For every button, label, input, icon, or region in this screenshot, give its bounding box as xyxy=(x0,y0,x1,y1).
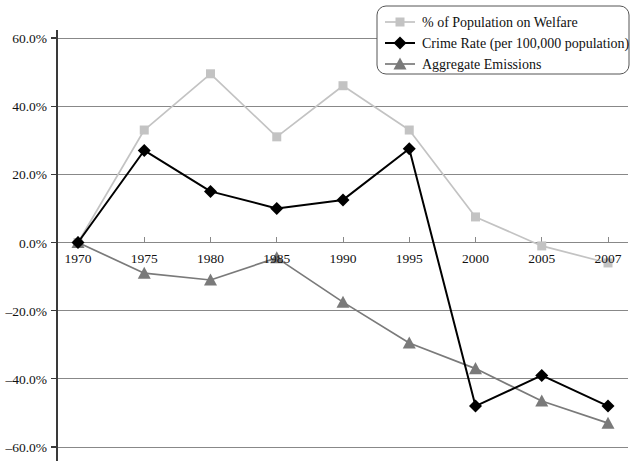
data-point-marker xyxy=(206,69,215,78)
data-point-marker xyxy=(405,126,414,135)
legend-label-1: % of Population on Welfare xyxy=(422,15,578,30)
x-axis-label: 1970 xyxy=(65,251,92,266)
data-point-marker xyxy=(537,241,546,250)
line-chart: 60.0%40.0%20.0%0.0%–20.0%–40.0%–60.0% 19… xyxy=(0,0,636,463)
legend-label-2: Crime Rate (per 100,000 population) xyxy=(422,36,630,52)
x-axis-label: 1980 xyxy=(197,251,224,266)
x-axis-labels: 197019751980198519901995200020052007 xyxy=(65,251,622,266)
y-axis-label: –60.0% xyxy=(4,440,47,455)
x-axis-label: 1975 xyxy=(131,251,158,266)
chart-container: 60.0%40.0%20.0%0.0%–20.0%–40.0%–60.0% 19… xyxy=(0,0,636,463)
x-axis-label: 2000 xyxy=(462,251,489,266)
y-axis-label: 0.0% xyxy=(19,236,47,251)
data-point-marker xyxy=(339,81,348,90)
x-axis-label: 1990 xyxy=(330,251,357,266)
y-axis-label: 40.0% xyxy=(12,99,47,114)
x-axis-label: 2005 xyxy=(528,251,555,266)
legend-label-3: Aggregate Emissions xyxy=(422,57,541,72)
chart-legend: % of Population on WelfareCrime Rate (pe… xyxy=(377,6,630,74)
data-point-marker xyxy=(471,212,480,221)
data-point-marker xyxy=(140,126,149,135)
y-axis-label: 20.0% xyxy=(12,167,47,182)
y-axis-label: –20.0% xyxy=(4,304,47,319)
x-axis-label: 2007 xyxy=(595,251,622,266)
x-axis-label: 1985 xyxy=(263,251,290,266)
x-axis-label: 1995 xyxy=(396,251,423,266)
y-axis-label: –40.0% xyxy=(4,372,47,387)
data-point-marker xyxy=(272,132,281,141)
data-point-marker xyxy=(396,18,405,27)
y-axis-label: 60.0% xyxy=(12,31,47,46)
